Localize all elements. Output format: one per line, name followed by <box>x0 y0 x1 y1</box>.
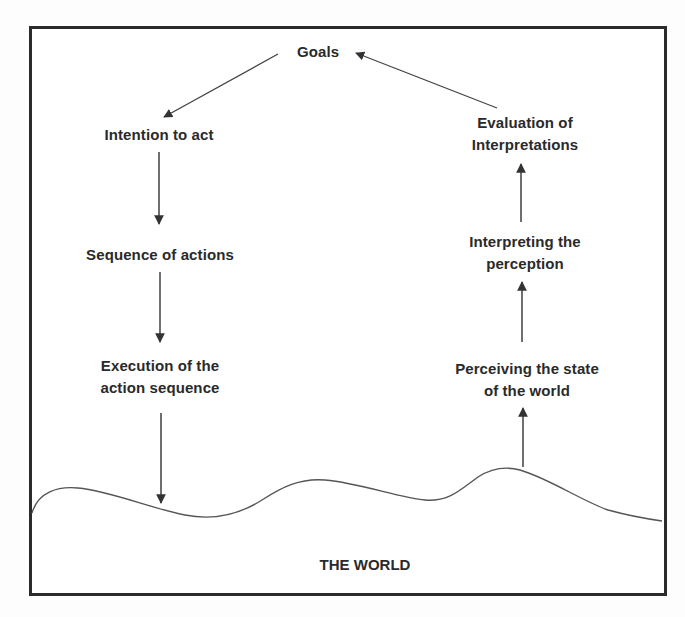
node-sequence: Sequence of actions <box>86 244 234 266</box>
diagram-connectors <box>0 0 685 617</box>
node-evaluation-line2: Interpretations <box>472 134 579 156</box>
diagram-canvas: Goals Intention to act Sequence of actio… <box>0 0 685 617</box>
node-sequence-label: Sequence of actions <box>86 246 234 263</box>
node-intention-label: Intention to act <box>104 126 213 143</box>
node-interpreting-line1: Interpreting the <box>469 231 581 253</box>
world-horizon-curve <box>32 468 662 521</box>
node-perceiving-line2: of the world <box>455 380 599 402</box>
node-interpreting-line2: perception <box>469 253 581 275</box>
node-evaluation: Evaluation of Interpretations <box>472 112 579 156</box>
node-execution-line1: Execution of the <box>100 355 219 377</box>
node-world-label: THE WORLD <box>320 556 411 573</box>
node-goals-label: Goals <box>297 43 339 60</box>
node-perceiving-line1: Perceiving the state <box>455 358 599 380</box>
node-goals: Goals <box>297 41 339 63</box>
node-perceiving: Perceiving the state of the world <box>455 358 599 402</box>
node-execution-line2: action sequence <box>100 377 219 399</box>
node-interpreting: Interpreting the perception <box>469 231 581 275</box>
arrow-evaluation-to-goals <box>356 53 497 108</box>
arrow-goals-to-intention <box>164 54 278 117</box>
node-intention: Intention to act <box>104 124 213 146</box>
node-world: THE WORLD <box>320 554 411 576</box>
node-evaluation-line1: Evaluation of <box>472 112 579 134</box>
node-execution: Execution of the action sequence <box>100 355 219 399</box>
